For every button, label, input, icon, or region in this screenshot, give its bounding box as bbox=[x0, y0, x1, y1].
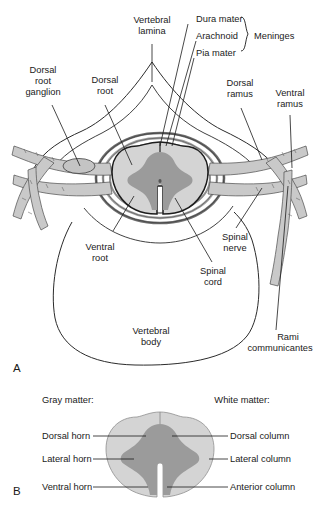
panel-a-letter: A bbox=[13, 362, 21, 374]
label-lateral-horn: Lateral horn bbox=[42, 454, 92, 464]
label-spinal-nerve-line1: Spinal bbox=[222, 232, 248, 242]
leader-arachnoid bbox=[166, 41, 196, 146]
label-arachnoid: Arachnoid bbox=[196, 31, 238, 41]
panel-b-letter: B bbox=[13, 485, 21, 497]
leader-dorsal-root-ganglion bbox=[52, 105, 80, 166]
dorsal-root-ganglion bbox=[63, 159, 95, 174]
leader-pia-mater bbox=[172, 58, 194, 146]
label-ventral-root-line1: Ventral bbox=[86, 242, 115, 252]
spinal-canal-floor bbox=[84, 206, 233, 243]
label-spinal-cord-line1: Spinal bbox=[200, 266, 226, 276]
leader-dorsal-ramus bbox=[241, 108, 262, 160]
central-canal-a bbox=[158, 179, 161, 183]
label-ventral-ramus-line1: Ventral bbox=[276, 88, 305, 98]
label-rami-communicantes-line2: communicantes bbox=[247, 343, 312, 353]
label-vertebral-lamina-line2: lamina bbox=[138, 26, 166, 36]
label-spinal-nerve-line2: nerve bbox=[223, 243, 246, 253]
label-rami-communicantes-line1: Rami bbox=[277, 332, 299, 342]
panel-b: Gray matter: White matter: Dorsal horn L… bbox=[13, 395, 295, 497]
label-ventral-root-line2: root bbox=[92, 253, 108, 263]
label-spinal-cord-line2: cord bbox=[204, 277, 222, 287]
label-dorsal-horn: Dorsal horn bbox=[42, 431, 90, 441]
label-dorsal-ramus-line2: ramus bbox=[227, 89, 253, 99]
label-anterior-column: Anterior column bbox=[230, 482, 295, 492]
panel-a: Vertebral lamina Dura mater Arachnoid Pi… bbox=[12, 14, 313, 374]
label-ventral-ramus-line2: ramus bbox=[277, 99, 303, 109]
label-meninges: Meninges bbox=[254, 31, 295, 41]
label-dorsal-root-ganglion-line2: root bbox=[35, 76, 51, 86]
label-vertebral-body-line1: Vertebral bbox=[132, 326, 169, 336]
label-lateral-column: Lateral column bbox=[230, 454, 291, 464]
label-dorsal-root-line1: Dorsal bbox=[92, 75, 119, 85]
heading-white-matter: White matter: bbox=[214, 395, 269, 405]
label-ventral-horn: Ventral horn bbox=[42, 482, 92, 492]
anatomy-figure: Vertebral lamina Dura mater Arachnoid Pi… bbox=[0, 0, 321, 509]
label-vertebral-body-line2: body bbox=[141, 337, 162, 347]
label-dorsal-column: Dorsal column bbox=[230, 431, 289, 441]
label-pia-mater: Pia mater bbox=[196, 48, 236, 58]
label-dorsal-root-ganglion-line3: ganglion bbox=[25, 87, 60, 97]
left-spinal-nerve-trunk bbox=[12, 146, 112, 175]
label-vertebral-lamina-line1: Vertebral bbox=[133, 15, 170, 25]
label-dorsal-ramus-line1: Dorsal bbox=[227, 78, 254, 88]
label-dura-mater: Dura mater bbox=[196, 14, 243, 24]
heading-gray-matter: Gray matter: bbox=[42, 395, 94, 405]
figure-root: Vertebral lamina Dura mater Arachnoid Pi… bbox=[0, 0, 321, 509]
label-dorsal-root-line2: root bbox=[97, 86, 113, 96]
label-dorsal-root-ganglion-line1: Dorsal bbox=[30, 65, 57, 75]
